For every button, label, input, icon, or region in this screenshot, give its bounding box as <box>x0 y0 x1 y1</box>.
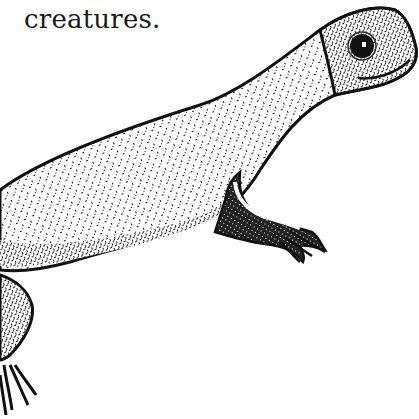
eye-icon <box>348 32 376 60</box>
salamander-illustration <box>0 0 419 419</box>
hind-toes <box>0 365 36 415</box>
hind-leg <box>0 275 33 360</box>
